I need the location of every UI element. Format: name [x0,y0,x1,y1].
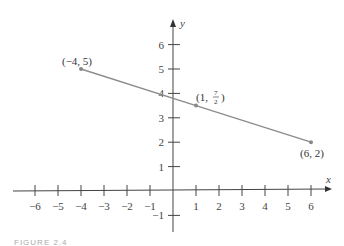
x-tick-label: −2 [121,200,133,212]
data-point [194,104,198,108]
y-tick-label: −1 [152,209,164,221]
x-tick-label: −5 [52,200,64,212]
svg-text:2: 2 [214,98,218,106]
x-tick-label: −4 [75,200,87,212]
y-axis-arrow-icon [170,19,176,27]
data-point [309,140,313,144]
y-tick-label: 1 [159,161,165,173]
x-axis [13,189,327,191]
point-label-c: (6, 2) [300,147,324,160]
x-tick-label: 6 [308,200,314,212]
x-tick-label: −3 [98,200,110,212]
y-tick-label: 3 [159,112,165,124]
y-ticks: −1123456 [152,39,180,222]
y-tick-label: 6 [159,39,165,51]
x-axis-label: x [325,173,331,185]
svg-text:(1,: (1, [196,91,208,104]
x-tick-label: −6 [29,200,41,212]
y-tick-label: 5 [159,63,165,75]
x-axis-arrow-icon [325,186,332,192]
x-tick-label: 1 [193,200,199,212]
coordinate-plot: x y −6−5−4−3−2−1123456 −1123456 (−4, 5) … [0,0,344,246]
svg-text:7: 7 [214,89,218,97]
data-points [79,67,313,144]
x-tick-label: 2 [216,200,222,212]
figure-caption: FIGURE 2.4 [14,238,68,246]
data-point [79,67,83,71]
y-tick-label: 2 [159,136,165,148]
point-label-b: (1, 7 2 ) [196,89,225,106]
svg-text:): ) [221,91,225,104]
point-label-a: (−4, 5) [62,55,92,68]
y-axis-label: y [179,17,185,29]
x-tick-label: 4 [262,200,268,212]
x-tick-label: 3 [239,200,245,212]
x-tick-label: 5 [285,200,291,212]
